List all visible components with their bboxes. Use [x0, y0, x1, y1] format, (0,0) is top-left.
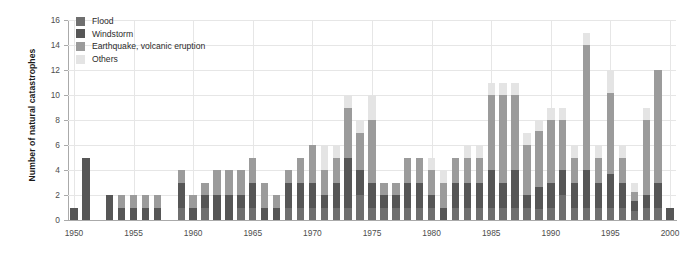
bar-segment — [368, 120, 375, 183]
bar-segment — [464, 208, 471, 221]
legend-item[interactable]: Others — [76, 53, 205, 66]
bar-segment — [619, 208, 626, 221]
bar-segment — [583, 208, 590, 221]
bar-segment — [607, 208, 614, 220]
x-axis-line — [68, 220, 677, 221]
legend-item[interactable]: Earthquake, volcanic eruption — [76, 40, 205, 53]
y-tick-label: 16 — [38, 15, 60, 25]
bar — [643, 108, 650, 221]
bar-segment — [201, 183, 208, 196]
legend-item[interactable]: Windstorm — [76, 28, 205, 41]
bar — [261, 183, 268, 221]
bar-segment — [225, 170, 232, 195]
x-tick-label: 1985 — [471, 228, 511, 238]
bar-segment — [547, 183, 554, 208]
bar-segment — [476, 208, 483, 221]
bar-segment — [488, 95, 495, 170]
bar-segment — [547, 120, 554, 183]
bar-segment — [476, 158, 483, 183]
bar-segment — [428, 208, 435, 221]
bar-segment — [106, 195, 113, 220]
bar — [154, 195, 161, 220]
y-tick-label: 10 — [38, 90, 60, 100]
y-tick-label: 4 — [38, 165, 60, 175]
bar-segment — [595, 183, 602, 208]
bar-segment — [321, 170, 328, 195]
legend-item-label: Flood — [92, 16, 114, 26]
bar-segment — [416, 183, 423, 208]
bar — [178, 170, 185, 220]
bar — [583, 33, 590, 221]
bar — [321, 145, 328, 220]
bar — [297, 158, 304, 221]
bar-segment — [189, 195, 196, 208]
legend-item-label: Others — [92, 54, 118, 64]
bar-segment — [643, 120, 650, 195]
bar — [106, 195, 113, 220]
bar-segment — [201, 208, 208, 221]
bar-segment — [440, 170, 447, 183]
bar-segment — [488, 208, 495, 221]
bar-segment — [499, 83, 506, 96]
legend-swatch-icon — [76, 29, 85, 38]
bar — [201, 183, 208, 221]
gridline-vertical — [74, 20, 75, 220]
chart-legend: FloodWindstormEarthquake, volcanic erupt… — [76, 15, 205, 65]
y-tick-label: 12 — [38, 65, 60, 75]
x-tick-label: 1990 — [531, 228, 571, 238]
bar-segment — [523, 133, 530, 146]
bar-segment — [356, 133, 363, 171]
bar — [368, 95, 375, 220]
bar-segment — [249, 208, 256, 221]
legend-swatch-icon — [76, 17, 85, 26]
bar-segment — [380, 208, 387, 221]
bar-segment — [249, 183, 256, 208]
bar-segment — [178, 208, 185, 221]
bar-segment — [428, 195, 435, 208]
bar — [392, 183, 399, 221]
bar-segment — [452, 208, 459, 221]
y-tick-label: 8 — [38, 115, 60, 125]
bar — [333, 145, 340, 220]
bar-segment — [392, 195, 399, 208]
bar-segment — [368, 95, 375, 120]
bar-segment — [428, 158, 435, 171]
bar-segment — [547, 108, 554, 121]
bar-segment — [631, 211, 638, 220]
bar-segment — [285, 183, 292, 208]
y-tick-mark — [64, 195, 68, 196]
bar — [523, 133, 530, 221]
bar — [631, 183, 638, 221]
bar-segment — [356, 195, 363, 220]
bar-segment — [309, 145, 316, 183]
bar-segment — [607, 93, 614, 174]
bar-segment — [583, 45, 590, 170]
bar-segment — [535, 187, 542, 209]
bar — [82, 158, 89, 221]
bar-segment — [416, 208, 423, 221]
bar-segment — [261, 208, 268, 221]
bar-segment — [333, 145, 340, 158]
bar-segment — [321, 208, 328, 221]
x-tick-label: 1950 — [54, 228, 94, 238]
bar-segment — [631, 201, 638, 210]
bar-segment — [368, 183, 375, 208]
bar-segment — [237, 208, 244, 221]
bar-segment — [595, 158, 602, 183]
bar-segment — [571, 145, 578, 158]
bar — [464, 145, 471, 220]
bar-segment — [297, 183, 304, 208]
bar-segment — [643, 195, 650, 208]
bar-segment — [488, 170, 495, 208]
bar-segment — [559, 108, 566, 121]
bar-segment — [380, 183, 387, 196]
y-tick-mark — [64, 20, 68, 21]
bar — [547, 108, 554, 221]
bar — [619, 145, 626, 220]
bar-segment — [70, 208, 77, 221]
legend-item[interactable]: Flood — [76, 15, 205, 28]
bar-segment — [237, 170, 244, 195]
bar-segment — [309, 183, 316, 208]
bar-segment — [356, 170, 363, 195]
bar — [237, 170, 244, 220]
